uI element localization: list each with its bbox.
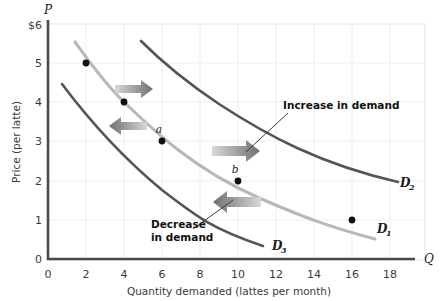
x-tick-6: 6 (159, 268, 166, 281)
x-tick-4: 4 (121, 268, 128, 281)
x-tick-14: 14 (307, 268, 321, 281)
x-tick-10: 10 (231, 268, 245, 281)
annotation-decrease-line1: Decrease (151, 218, 206, 230)
x-tick-2: 2 (83, 268, 90, 281)
y-tick-5: 5 (35, 57, 42, 70)
y-axis-title: Price (per latte) (10, 101, 22, 183)
chart-svg: P Q 0 1 2 3 4 5 $6 0 2 4 6 8 10 12 14 16… (0, 0, 448, 301)
x-tick-18: 18 (383, 268, 397, 281)
plot-area (48, 24, 425, 260)
marker-label-b: b (232, 163, 239, 175)
demand-curve-chart: P Q 0 1 2 3 4 5 $6 0 2 4 6 8 10 12 14 16… (0, 0, 448, 301)
x-axis-title: Quantity demanded (lattes per month) (127, 285, 331, 297)
y-tick-0: 0 (35, 253, 42, 266)
x-tick-8: 8 (197, 268, 204, 281)
y-tick-3: 3 (35, 135, 42, 148)
marker-point-a (159, 138, 166, 145)
y-tick-2: 2 (35, 175, 42, 188)
x-tick-16: 16 (345, 268, 359, 281)
x-axis-variable: Q (424, 252, 434, 266)
curve-label-D2-subscript: 2 (408, 182, 415, 192)
y-axis-variable: P (43, 3, 53, 17)
x-tick-12: 12 (269, 268, 283, 281)
marker-point-2 (121, 99, 128, 106)
y-tick-6: $6 (28, 19, 42, 32)
x-tick-0: 0 (45, 268, 52, 281)
annotation-decrease-line2: in demand (151, 231, 213, 243)
marker-point-1 (83, 60, 90, 67)
marker-point-b (235, 178, 242, 185)
curve-label-D3-subscript: 3 (281, 245, 287, 255)
y-tick-4: 4 (35, 96, 42, 109)
marker-label-a: a (156, 123, 162, 135)
marker-point-5 (349, 217, 356, 224)
curve-label-D1-subscript: 1 (386, 228, 392, 238)
annotation-increase-in-demand: Increase in demand (283, 99, 399, 111)
y-tick-1: 1 (35, 214, 42, 227)
